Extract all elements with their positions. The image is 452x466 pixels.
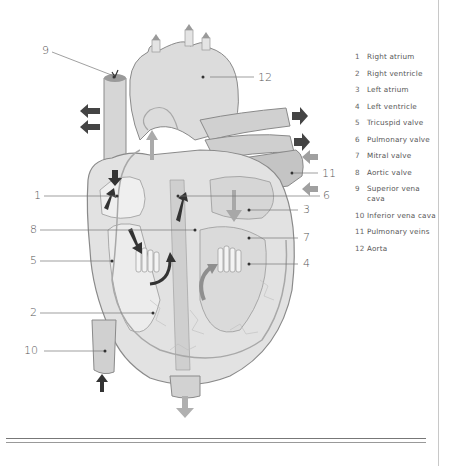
callout-12: 12 bbox=[258, 71, 272, 84]
legend-number: 7 bbox=[355, 151, 367, 161]
legend-number: 12 bbox=[355, 244, 367, 254]
legend-number: 2 bbox=[355, 69, 367, 79]
legend-label: Inferior vena cava bbox=[367, 211, 440, 221]
callout-11: 11 bbox=[322, 167, 336, 180]
legend-item: 2Right ventricle bbox=[355, 69, 440, 79]
legend-item: 11Pulmonary veins bbox=[355, 227, 440, 237]
divider-line bbox=[6, 442, 426, 443]
legend-number: 1 bbox=[355, 52, 367, 62]
callout-1: 1 bbox=[34, 189, 41, 202]
inferior-vena-cava-shape bbox=[92, 320, 116, 374]
legend-item: 12Aorta bbox=[355, 244, 440, 254]
legend-number: 10 bbox=[355, 211, 367, 221]
legend-number: 8 bbox=[355, 168, 367, 178]
callout-6: 6 bbox=[323, 189, 330, 202]
legend-number: 9 bbox=[355, 184, 367, 194]
callout-8: 8 bbox=[30, 223, 37, 236]
legend-label: Tricuspid valve bbox=[367, 118, 440, 128]
legend-label: Pulmonary valve bbox=[367, 135, 440, 145]
legend-label: Left atrium bbox=[367, 85, 440, 95]
legend-number: 11 bbox=[355, 227, 367, 237]
heart-diagram: 9 12 1 6 11 3 8 7 5 4 2 10 bbox=[0, 0, 360, 420]
superior-vena-cava-shape bbox=[104, 78, 126, 160]
legend-number: 5 bbox=[355, 118, 367, 128]
legend-item: 6Pulmonary valve bbox=[355, 135, 440, 145]
legend-item: 5Tricuspid valve bbox=[355, 118, 440, 128]
page: 9 12 1 6 11 3 8 7 5 4 2 10 1Right atrium… bbox=[0, 0, 452, 466]
callout-2: 2 bbox=[30, 306, 37, 319]
legend-item: 4Left ventricle bbox=[355, 102, 440, 112]
legend-label: Superior vena cava bbox=[367, 184, 440, 204]
divider-line bbox=[6, 438, 426, 439]
callout-10: 10 bbox=[24, 344, 38, 357]
legend-number: 4 bbox=[355, 102, 367, 112]
legend-label: Pulmonary veins bbox=[367, 227, 440, 237]
callout-4: 4 bbox=[303, 257, 310, 270]
legend-number: 3 bbox=[355, 85, 367, 95]
legend-item: 3Left atrium bbox=[355, 85, 440, 95]
legend-label: Aortic valve bbox=[367, 168, 440, 178]
legend-label: Mitral valve bbox=[367, 151, 440, 161]
legend-item: 10Inferior vena cava bbox=[355, 211, 440, 221]
legend-item: 1Right atrium bbox=[355, 52, 440, 62]
legend: 1Right atrium 2Right ventricle 3Left atr… bbox=[355, 52, 440, 260]
callout-3: 3 bbox=[303, 203, 310, 216]
legend-label: Right ventricle bbox=[367, 69, 440, 79]
callout-7: 7 bbox=[303, 231, 310, 244]
callout-9: 9 bbox=[42, 44, 49, 57]
legend-item: 8Aortic valve bbox=[355, 168, 440, 178]
legend-label: Aorta bbox=[367, 244, 440, 254]
legend-label: Left ventricle bbox=[367, 102, 440, 112]
legend-label: Right atrium bbox=[367, 52, 440, 62]
legend-item: 9Superior vena cava bbox=[355, 184, 440, 204]
callout-5: 5 bbox=[30, 254, 37, 267]
legend-number: 6 bbox=[355, 135, 367, 145]
page-edge bbox=[438, 0, 439, 466]
legend-item: 7Mitral valve bbox=[355, 151, 440, 161]
